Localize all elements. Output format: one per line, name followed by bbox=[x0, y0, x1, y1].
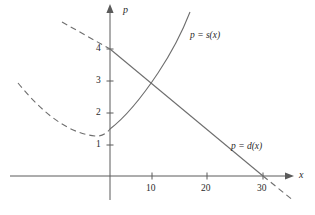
y-tick-label-2: 2 bbox=[96, 108, 101, 118]
y-tick-label-4: 4 bbox=[96, 44, 101, 54]
supply-demand-figure: p x 1 2 3 4 10 20 30 p = s(x) p = d(x) bbox=[0, 0, 315, 215]
y-axis bbox=[106, 4, 113, 200]
demand-curve-dashed-right bbox=[263, 176, 294, 201]
graph-canvas bbox=[0, 0, 315, 215]
y-tick-label-3: 3 bbox=[96, 76, 101, 86]
y-axis-label: p bbox=[123, 5, 128, 15]
x-axis-label: x bbox=[299, 170, 303, 180]
supply-curve-label: p = s(x) bbox=[190, 31, 220, 41]
x-tick-label-30: 30 bbox=[257, 184, 267, 194]
demand-curve-solid bbox=[110, 49, 263, 176]
demand-curve-label: p = d(x) bbox=[231, 142, 262, 152]
y-tick-label-1: 1 bbox=[96, 140, 101, 150]
x-tick-label-20: 20 bbox=[201, 184, 211, 194]
x-tick-label-10: 10 bbox=[146, 184, 156, 194]
supply-curve-solid bbox=[110, 12, 190, 129]
demand-curve-dashed-left bbox=[62, 22, 110, 49]
